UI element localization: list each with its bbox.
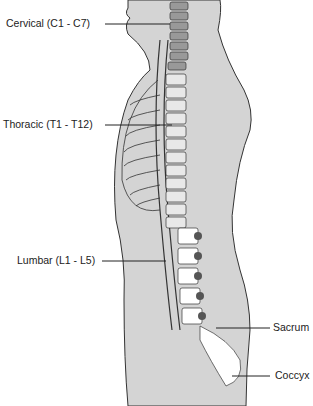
label-coccyx: Coccyx bbox=[275, 369, 309, 381]
label-sacrum: Sacrum bbox=[273, 321, 309, 333]
spine-diagram bbox=[0, 0, 313, 406]
label-thoracic: Thoracic (T1 - T12) bbox=[3, 118, 93, 130]
label-cervical: Cervical (C1 - C7) bbox=[6, 17, 90, 29]
body-silhouette bbox=[115, 0, 252, 406]
label-lumbar: Lumbar (L1 - L5) bbox=[17, 254, 95, 266]
